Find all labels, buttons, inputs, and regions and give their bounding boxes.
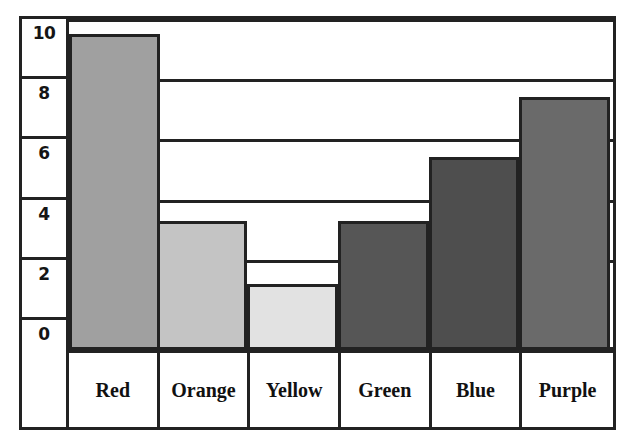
bar-blue[interactable]	[429, 157, 520, 350]
y-axis-tick-label: 6	[38, 143, 49, 163]
y-axis-tick-label: 10	[33, 23, 56, 43]
y-axis-tick-label: 4	[38, 204, 49, 224]
y-axis-tick-0: 0	[22, 320, 66, 433]
bar-purple[interactable]	[519, 97, 610, 350]
y-axis-tick-10: 10	[22, 19, 66, 79]
y-axis-tick-label: 8	[38, 83, 49, 103]
bar-red[interactable]	[69, 34, 160, 350]
category-label-purple[interactable]: Purple	[522, 353, 613, 427]
y-axis-tick-6: 6	[22, 139, 66, 199]
category-label-text: Orange	[171, 379, 235, 402]
bar-chart: 1086420 RedOrangeYellowGreenBluePurple	[0, 0, 637, 446]
category-label-text: Purple	[539, 379, 597, 402]
plot-area	[69, 19, 613, 350]
y-axis-tick-label: 2	[38, 264, 49, 284]
category-label-green[interactable]: Green	[341, 353, 432, 427]
y-axis-tick-4: 4	[22, 200, 66, 260]
category-label-orange[interactable]: Orange	[160, 353, 251, 427]
chart-frame: 1086420 RedOrangeYellowGreenBluePurple	[19, 16, 616, 430]
bar-yellow[interactable]	[247, 284, 338, 350]
y-axis-tick-2: 2	[22, 260, 66, 320]
category-label-text: Blue	[456, 379, 495, 402]
y-axis-tick-label: 0	[38, 324, 49, 344]
category-label-blue[interactable]: Blue	[432, 353, 523, 427]
category-label-text: Green	[358, 379, 411, 402]
bar-green[interactable]	[338, 221, 429, 350]
category-label-row: RedOrangeYellowGreenBluePurple	[69, 350, 613, 427]
y-axis-tick-8: 8	[22, 79, 66, 139]
category-label-yellow[interactable]: Yellow	[250, 353, 341, 427]
axis-baseline	[69, 347, 613, 350]
y-axis-label-column: 1086420	[22, 19, 69, 427]
bar-orange[interactable]	[157, 221, 248, 350]
category-label-text: Yellow	[266, 379, 323, 402]
gridline-10	[69, 19, 613, 22]
category-label-text: Red	[96, 379, 130, 402]
category-label-red[interactable]: Red	[69, 353, 160, 427]
